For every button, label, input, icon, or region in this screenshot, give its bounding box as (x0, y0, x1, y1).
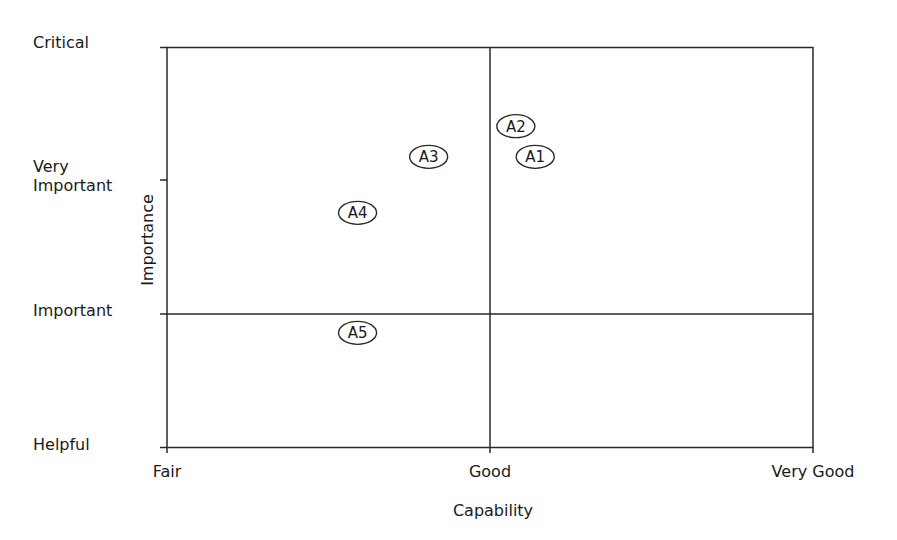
point-label: A1 (525, 148, 545, 166)
point-label: A3 (419, 148, 439, 166)
data-point-a1: A1 (516, 145, 554, 168)
data-point-a5: A5 (339, 321, 377, 344)
data-point-a4: A4 (339, 201, 377, 224)
point-label: A2 (506, 118, 526, 136)
point-label: A4 (348, 204, 368, 222)
data-point-a2: A2 (497, 115, 535, 138)
data-point-a3: A3 (410, 145, 448, 168)
plot-frame (160, 48, 813, 454)
point-label: A5 (348, 324, 368, 342)
quadrant-plot: A1A2A3A4A5 (0, 0, 897, 540)
data-points: A1A2A3A4A5 (339, 115, 555, 345)
